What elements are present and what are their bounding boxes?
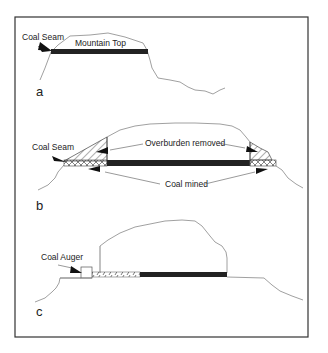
- panel-label-c: c: [36, 304, 43, 319]
- coal-mined-leader-right: [205, 172, 255, 184]
- coal-seam-label-b: Coal Seam: [32, 142, 74, 152]
- mountain-outline-a: [40, 33, 225, 94]
- coal-mined-right: [250, 160, 276, 166]
- ground-right-b: [276, 166, 303, 188]
- coal-mined-arrow-left: [88, 166, 100, 172]
- panel-a: Coal Seam Mountain Top a: [22, 32, 225, 99]
- panel-c: Coal Auger c: [35, 220, 303, 319]
- ground-left-b: [38, 165, 64, 190]
- coal-mined-label: Coal mined: [165, 179, 208, 189]
- panel-b: Coal Seam Overburden removed Coal mined …: [32, 123, 303, 213]
- coal-auger-label: Coal Auger: [41, 252, 83, 262]
- ground-right-c: [227, 277, 303, 300]
- ground-outline-c: [35, 278, 81, 302]
- coal-seam-arrow-b: [52, 156, 66, 162]
- overburden-leader-left: [110, 144, 143, 150]
- coal-mined-arrow-right: [256, 168, 268, 174]
- panel-label-b: b: [36, 198, 43, 213]
- coal-auger-leader: [58, 265, 72, 268]
- mountain-outline-c: [100, 220, 227, 273]
- figure-frame: [15, 17, 308, 337]
- coal-mined-leader-left: [105, 172, 160, 184]
- overburden-removed-label: Overburden removed: [145, 138, 226, 148]
- coal-auger-box: [81, 267, 92, 278]
- mountain-top-label: Mountain Top: [75, 38, 126, 48]
- auger-holes: [92, 272, 140, 277]
- coal-seam-bar-a: [51, 49, 148, 54]
- panel-label-a: a: [36, 84, 44, 99]
- coal-seam-label-a: Coal Seam: [22, 32, 64, 42]
- coal-seam-bar-b: [107, 160, 250, 166]
- coal-mined-left: [64, 160, 107, 166]
- mining-diagram: Coal Seam Mountain Top a Coal Seam Overb…: [0, 0, 328, 353]
- coal-auger-arrow: [70, 266, 82, 273]
- coal-seam-arrow-head-a: [38, 42, 52, 51]
- coal-seam-bar-c: [140, 272, 227, 277]
